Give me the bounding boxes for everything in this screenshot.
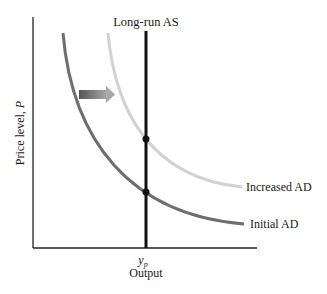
initial-ad-curve — [63, 33, 244, 224]
equilibrium-dot-increased — [143, 136, 150, 143]
x-axis-label: Output — [129, 266, 163, 280]
lras-label: Long-run AS — [113, 15, 179, 29]
shift-right-arrow-icon — [79, 86, 115, 103]
ad-shift-diagram: Long-run AS Increased AD Initial AD Pric… — [0, 0, 327, 294]
increased-ad-label: Increased AD — [246, 180, 312, 194]
initial-ad-label: Initial AD — [250, 217, 299, 231]
equilibrium-dot-initial — [143, 189, 150, 196]
y-axis-label: Price level, P — [13, 100, 27, 165]
increased-ad-curve — [108, 33, 242, 187]
